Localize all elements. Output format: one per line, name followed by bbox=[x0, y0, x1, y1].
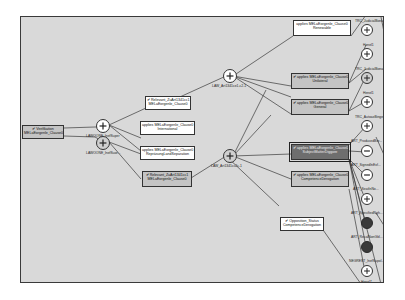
and-gate-leaf-0[interactable] bbox=[361, 24, 373, 36]
plus-icon bbox=[362, 121, 372, 131]
node-line2: International bbox=[142, 127, 193, 131]
plus-icon bbox=[362, 266, 372, 276]
right-node-unilateral[interactable]: ✔ applies MELaEorgenle_Clause0 Unilatera… bbox=[291, 73, 349, 89]
node-line2: SubjectMatterDiggore bbox=[293, 150, 347, 154]
node-line2: CompetenceDerogation bbox=[293, 177, 347, 181]
right-node-general[interactable]: ✔ applies MELaEorgenle_Clause0 General bbox=[291, 99, 349, 115]
and-gate-lower-left[interactable] bbox=[96, 136, 110, 150]
not-gate-leaf-5[interactable] bbox=[361, 145, 373, 157]
plus-icon bbox=[224, 70, 236, 82]
leaf-label-5: ART_ProducedBor... bbox=[351, 139, 382, 143]
right-node-renewable[interactable]: applies MELaEorgenle_Clause0 Renewable bbox=[293, 20, 351, 36]
leaf-label-8: ART_SpecifiedNgh... bbox=[351, 211, 383, 215]
leaf-label-11: Henel7 bbox=[361, 280, 372, 283]
leaf-label-9: ART_RecalNonGbl... bbox=[351, 235, 383, 239]
and-gate-leaf-2[interactable] bbox=[361, 72, 373, 84]
plus-icon bbox=[97, 137, 109, 149]
leaf-label-7: ART_SeatInNo... bbox=[353, 187, 379, 191]
leaf-label-6: ART_SignedInExf... bbox=[351, 163, 381, 167]
filled-gate-leaf-9[interactable] bbox=[361, 241, 373, 253]
mid-node-relevant[interactable]: ✔ Relevant_ZuArt1341cc1 MELaEorgenle_Cla… bbox=[145, 96, 191, 110]
and-gate-leaf-4[interactable] bbox=[361, 120, 373, 132]
node-line2: MELaEorgenle_Clause0 bbox=[147, 102, 189, 106]
and-gate-leaf-10[interactable] bbox=[361, 265, 373, 277]
minus-icon bbox=[362, 146, 372, 156]
node-line2: CompetenceDerogation bbox=[282, 223, 322, 227]
right-node-competence[interactable]: ✔ applies MELaEorgenle_Clause0 Competenc… bbox=[291, 171, 349, 187]
mid-node-relevant-grey[interactable]: ✔ Relevant_ZuArt1341cc1 MELaEorgenle_Cla… bbox=[142, 171, 192, 187]
leaf-label-0: TRC_JudicialBona... bbox=[355, 19, 384, 23]
plus-icon bbox=[362, 73, 372, 83]
node-line2: MELaEorgenle_Clause0 bbox=[144, 177, 190, 181]
not-gate-leaf-6[interactable] bbox=[361, 169, 373, 181]
mid-node-separation[interactable]: applies MELaEorgenle_Clause0 RepräsungLa… bbox=[140, 146, 195, 160]
gate-label-lower-left: LAWOONE_lnefSuor... bbox=[86, 151, 120, 155]
node-line2: General bbox=[293, 105, 347, 109]
filled-gate-leaf-8[interactable] bbox=[361, 217, 373, 229]
node-line2: Renewable bbox=[295, 26, 349, 30]
and-gate-leaf-7[interactable] bbox=[361, 193, 373, 205]
root-node-line2: MELaEorgenle_Clause0 bbox=[24, 131, 62, 135]
plus-icon bbox=[362, 25, 372, 35]
right-node-subject-matter[interactable]: ✔ applies MELaEorgenle_Clause0 SubjectMa… bbox=[291, 144, 349, 160]
leaf-label-1: Henel1 bbox=[363, 43, 374, 47]
mid-node-international[interactable]: applies MELaEorgenle_Clause0 Internation… bbox=[140, 121, 195, 135]
plus-icon bbox=[362, 194, 372, 204]
and-gate-center-lower[interactable] bbox=[223, 149, 237, 163]
leaf-label-4: TRC_AutoaxBinge... bbox=[355, 115, 384, 119]
node-line2: Unilateral bbox=[293, 79, 347, 83]
plus-icon bbox=[362, 97, 372, 107]
plus-icon bbox=[224, 150, 236, 162]
leaf-label-3: Henel1 bbox=[363, 91, 374, 95]
gate-label-center-upper: LAW_Art1341ce1-c2-1 bbox=[212, 84, 246, 88]
plus-icon bbox=[97, 120, 109, 132]
and-gate-upper-left[interactable] bbox=[96, 119, 110, 133]
plus-icon bbox=[362, 49, 372, 59]
and-gate-center-upper[interactable] bbox=[223, 69, 237, 83]
root-goal-node[interactable]: ✔ Verifikation MELaEorgenle_Clause0 bbox=[22, 125, 64, 139]
leaf-label-2: TRC_JudicialBona... bbox=[355, 67, 384, 71]
right-node-opposition[interactable]: ✔ Opposition_Status CompetenceDerogation bbox=[280, 217, 324, 231]
and-gate-leaf-1[interactable] bbox=[361, 48, 373, 60]
gate-label-center-lower: LAW_Art1341cc2c-1 bbox=[211, 164, 242, 168]
minus-icon bbox=[362, 170, 372, 180]
node-line2: RepräsungLandSeparation bbox=[142, 152, 193, 156]
diagram-canvas[interactable]: ✔ Verifikation MELaEorgenle_Clause0 LAWO… bbox=[20, 16, 384, 283]
leaf-label-10: NEGREST_lnefSupol... bbox=[349, 259, 384, 263]
and-gate-leaf-3[interactable] bbox=[361, 96, 373, 108]
